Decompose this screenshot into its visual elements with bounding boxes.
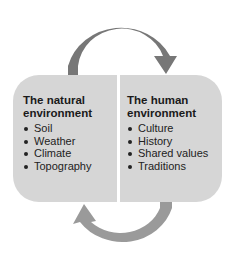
item-label: Weather	[34, 135, 75, 147]
bullet-icon	[128, 127, 132, 131]
title-line-2: environment	[127, 107, 196, 120]
human-environment-box: The human environment Culture History Sh…	[120, 75, 222, 202]
list-item: Topography	[23, 160, 92, 173]
item-label: History	[138, 135, 172, 147]
natural-environment-box: The natural environment Soil Weather Cli…	[13, 75, 117, 202]
list-item: Shared values	[127, 147, 208, 160]
item-label: Soil	[34, 122, 52, 134]
natural-environment-title: The natural environment	[23, 94, 92, 120]
bullet-icon	[128, 152, 132, 156]
item-label: Traditions	[138, 160, 186, 172]
bullet-icon	[24, 165, 28, 169]
bullet-icon	[128, 140, 132, 144]
bottom-arrow-icon	[73, 202, 172, 242]
human-environment-list: Culture History Shared values Traditions	[127, 122, 208, 173]
title-line-1: The natural	[23, 94, 92, 107]
list-item: Climate	[23, 147, 92, 160]
title-line-1: The human	[127, 94, 196, 107]
bullet-icon	[128, 165, 132, 169]
list-item: Traditions	[127, 160, 208, 173]
item-label: Culture	[138, 122, 173, 134]
bullet-icon	[24, 152, 28, 156]
bullet-icon	[24, 140, 28, 144]
human-environment-title: The human environment	[127, 94, 196, 120]
item-label: Climate	[34, 147, 71, 159]
list-item: History	[127, 135, 208, 148]
list-item: Soil	[23, 122, 92, 135]
natural-environment-list: Soil Weather Climate Topography	[23, 122, 92, 173]
item-label: Shared values	[138, 147, 208, 159]
list-item: Weather	[23, 135, 92, 148]
bullet-icon	[24, 127, 28, 131]
title-line-2: environment	[23, 107, 92, 120]
top-arrow-icon	[68, 28, 177, 75]
item-label: Topography	[34, 160, 92, 172]
list-item: Culture	[127, 122, 208, 135]
